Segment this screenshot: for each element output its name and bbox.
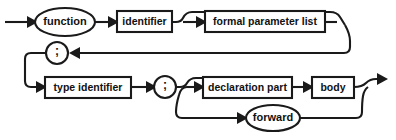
node-function-keyword: function — [35, 8, 95, 36]
node-semicolon-1: ; — [46, 42, 68, 64]
node-formal-parameter-list: formal parameter list — [205, 11, 325, 32]
semicolon-2-label: ; — [163, 78, 167, 92]
declaration-part-label: declaration part — [208, 81, 287, 93]
diagram-nodes-group: functionidentifierformal parameter list;… — [35, 8, 354, 131]
node-identifier: identifier — [117, 11, 172, 32]
node-type-identifier: type identifier — [45, 77, 131, 98]
railroad-diagram: functionidentifierformal parameter list;… — [0, 0, 396, 140]
node-forward-keyword: forward — [246, 105, 300, 131]
node-body: body — [312, 77, 354, 98]
semicolon-1-label: ; — [55, 44, 59, 58]
node-declaration-part: declaration part — [203, 77, 292, 98]
rail-identifier-to-fpl-up — [172, 12, 198, 22]
arrow-exit-icon — [377, 73, 388, 85]
function-keyword-label: function — [43, 15, 87, 27]
rail-semicolon1-left-loop — [25, 53, 46, 87]
identifier-label: identifier — [122, 15, 166, 27]
arrow-into-semicolon1-icon — [69, 47, 80, 59]
type-identifier-label: type identifier — [54, 81, 123, 93]
formal-parameter-list-label: formal parameter list — [213, 15, 317, 27]
node-semicolon-2: ; — [154, 76, 176, 98]
forward-keyword-label: forward — [253, 111, 293, 123]
body-label: body — [320, 81, 345, 93]
syntax-diagram-canvas: functionidentifierformal parameter list;… — [0, 0, 396, 140]
